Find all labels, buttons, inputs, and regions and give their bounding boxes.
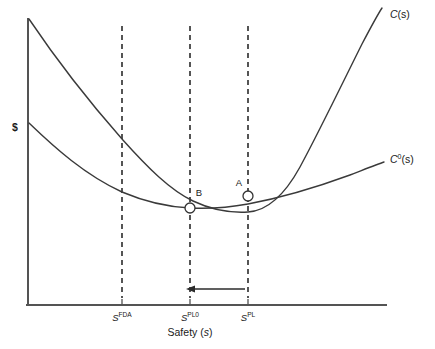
tick-label-spl0: SPL0 (181, 311, 199, 323)
curve-label-c-arg: (s) (398, 8, 410, 20)
marker-point-b (185, 203, 195, 213)
y-axis-unit-label: $ (12, 121, 18, 133)
reference-lines-group (122, 26, 248, 298)
x-axis-title-close: ) (209, 326, 213, 338)
tick-label-sfda-sup: FDA (119, 311, 133, 318)
curve-label-c: C(s) (390, 8, 410, 20)
cost-safety-chart: B A SFDA SPL0 SPL Safety (s) $ (0, 0, 435, 349)
marker-point-a (243, 191, 253, 201)
curve-label-c0-arg: (s) (402, 153, 414, 165)
curve-label-c0: C0(s) (390, 153, 414, 165)
tick-label-sfda: SFDA (112, 311, 132, 323)
tick-label-spl-sup: PL (247, 311, 255, 318)
shift-arrow (186, 286, 245, 293)
axes-group (27, 19, 386, 305)
point-label-a: A (236, 177, 243, 188)
curve-c0 (29, 123, 384, 208)
point-label-b: B (196, 187, 202, 198)
tick-label-spl0-sup: PL0 (187, 311, 199, 318)
tick-label-spl: SPL (241, 311, 256, 323)
x-axis-title-main: Safety ( (168, 326, 205, 338)
x-axis-title: Safety (s) (168, 326, 213, 338)
chart-canvas: B A SFDA SPL0 SPL Safety (s) $ (0, 0, 435, 349)
curve-c (29, 8, 382, 212)
